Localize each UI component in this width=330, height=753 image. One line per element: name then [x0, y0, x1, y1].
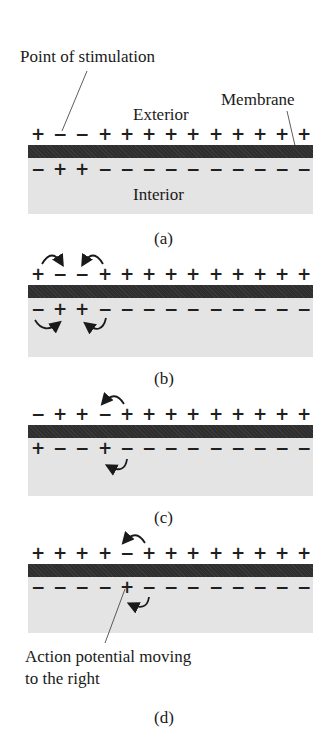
membrane-leader-line: [287, 111, 296, 150]
current-arrow-icon: [124, 535, 145, 543]
current-arrow-icon: [83, 256, 103, 265]
current-arrow-icon: [42, 256, 62, 265]
current-arrow-icon: [86, 318, 106, 329]
current-arrow-icon: [130, 597, 149, 607]
annotation-overlay: [0, 0, 330, 753]
current-arrow-icon: [35, 320, 59, 328]
action-potential-leader-line: [105, 589, 125, 643]
current-arrow-icon: [103, 396, 124, 404]
stimulation-leader-line: [62, 71, 87, 131]
current-arrow-icon: [108, 459, 127, 469]
